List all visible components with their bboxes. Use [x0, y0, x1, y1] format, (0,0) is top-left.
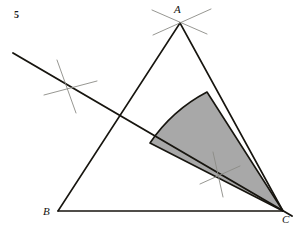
vertex-label-b: B	[43, 205, 50, 217]
figure-number-label: 5	[14, 9, 19, 20]
construction-diagram-svg: A B C 5	[0, 0, 302, 227]
vertex-label-c: C	[282, 213, 290, 225]
geometry-figure: A B C 5	[0, 0, 302, 227]
vertex-label-a: A	[173, 3, 181, 15]
